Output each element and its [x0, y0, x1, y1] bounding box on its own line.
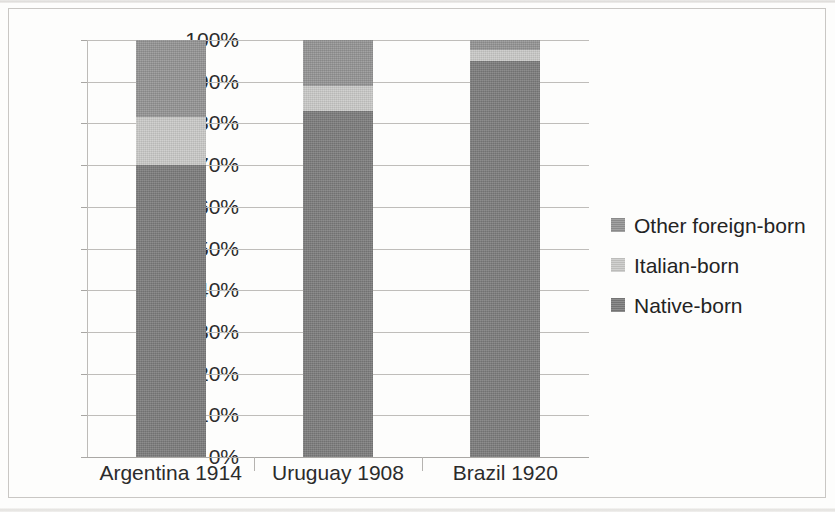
bar-segment: [303, 40, 373, 86]
legend-item: Other foreign-born: [611, 205, 835, 245]
bar-segment: [470, 61, 540, 457]
stacked-bar: [303, 40, 373, 457]
scan-edge-top: [0, 0, 835, 3]
y-axis-line: [87, 40, 88, 457]
bar-segment: [303, 111, 373, 457]
legend-label: Other foreign-born: [634, 215, 806, 236]
legend: Other foreign-bornItalian-bornNative-bor…: [611, 205, 835, 325]
legend-swatch-icon: [611, 258, 625, 272]
plot-area: [87, 40, 589, 457]
bar-segment: [136, 40, 206, 117]
bar-segment: [136, 117, 206, 165]
bar-segment: [303, 86, 373, 111]
bar-segment: [470, 40, 540, 50]
legend-swatch-icon: [611, 298, 625, 312]
chart-screenshot: 100%90%80%70%60%50%40%30%20%10%0% Argent…: [0, 0, 835, 512]
chart-frame: 100%90%80%70%60%50%40%30%20%10%0% Argent…: [8, 8, 826, 498]
legend-item: Native-born: [611, 285, 835, 325]
bar-segment: [470, 50, 540, 60]
scan-edge-bottom: [0, 508, 835, 512]
x-axis-category-label: Brazil 1920: [422, 461, 589, 485]
legend-item: Italian-born: [611, 245, 835, 285]
stacked-bar: [470, 40, 540, 457]
legend-swatch-icon: [611, 218, 625, 232]
x-axis-line: [81, 457, 589, 458]
legend-label: Native-born: [634, 295, 743, 316]
x-axis-category-label: Uruguay 1908: [254, 461, 421, 485]
bar-segment: [136, 165, 206, 457]
stacked-bar: [136, 40, 206, 457]
legend-label: Italian-born: [634, 255, 739, 276]
x-axis-category-label: Argentina 1914: [87, 461, 254, 485]
